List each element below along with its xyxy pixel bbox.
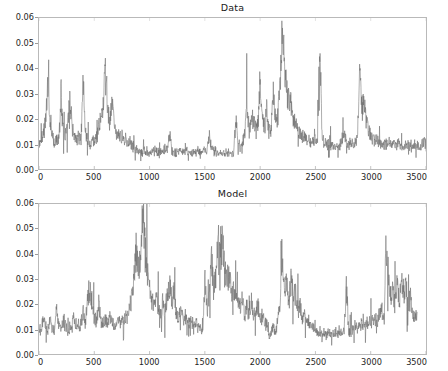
x-tick-label: 1000 bbox=[139, 357, 160, 367]
x-tick-label: 3000 bbox=[361, 357, 382, 367]
x-tick-label: 2500 bbox=[305, 172, 326, 182]
panel-model: Model 0.000.010.020.030.040.050.06 05001… bbox=[0, 186, 448, 371]
x-axis-data: 0500100015002000250030003500 bbox=[38, 171, 427, 185]
x-tick-label: 3000 bbox=[361, 172, 382, 182]
x-tick-label: 2000 bbox=[250, 172, 271, 182]
x-tick-label: 1000 bbox=[139, 172, 160, 182]
x-axis-model: 0500100015002000250030003500 bbox=[38, 356, 427, 370]
chart-title-data: Data bbox=[38, 2, 427, 14]
x-tick-label: 3500 bbox=[406, 357, 427, 367]
series-line-data bbox=[39, 18, 426, 169]
chart-title-model: Model bbox=[38, 188, 427, 200]
series-line-model bbox=[39, 204, 426, 354]
panel-data: Data 0.000.010.020.030.040.050.06 050010… bbox=[0, 0, 448, 186]
plot-area-data bbox=[38, 17, 427, 170]
x-tick-label: 2500 bbox=[305, 357, 326, 367]
x-tick-label: 500 bbox=[86, 357, 102, 367]
x-tick-label: 3500 bbox=[406, 172, 427, 182]
x-tick-label: 1500 bbox=[194, 357, 215, 367]
x-tick-label: 0 bbox=[38, 172, 43, 182]
x-tick-label: 2000 bbox=[250, 357, 271, 367]
figure: Data 0.000.010.020.030.040.050.06 050010… bbox=[0, 0, 448, 371]
y-axis-model: 0.000.010.020.030.040.050.06 bbox=[0, 203, 38, 355]
x-tick-label: 0 bbox=[38, 357, 43, 367]
x-tick-label: 1500 bbox=[194, 172, 215, 182]
x-tick-label: 500 bbox=[86, 172, 102, 182]
plot-area-model bbox=[38, 203, 427, 355]
y-axis-data: 0.000.010.020.030.040.050.06 bbox=[0, 17, 38, 170]
